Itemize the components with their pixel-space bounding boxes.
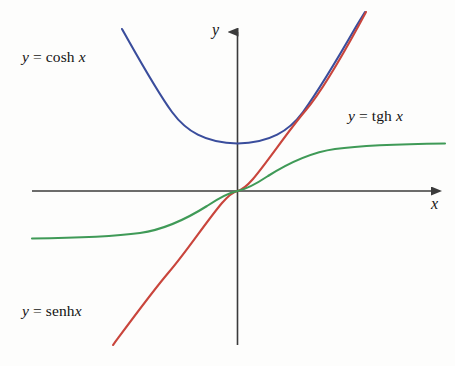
curve-senh <box>113 12 366 345</box>
label-cosh-lhs: y <box>22 48 29 65</box>
y-axis-label: y <box>212 22 219 38</box>
label-tgh-lhs: y <box>348 107 355 124</box>
label-cosh-fnname: cosh <box>46 48 75 65</box>
label-tgh-fnname: tgh <box>372 107 392 124</box>
label-tgh-function: y=tghx <box>348 108 403 124</box>
label-senh-arg: x <box>75 302 82 319</box>
label-senh-lhs: y <box>22 302 29 319</box>
label-senh-fnname: senh <box>46 302 75 319</box>
label-tgh-equals: = <box>359 107 368 124</box>
label-cosh-function: y=coshx <box>22 49 86 65</box>
label-tgh-arg: x <box>396 107 403 124</box>
label-cosh-arg: x <box>79 48 86 65</box>
label-senh-function: y=senhx <box>22 303 82 319</box>
label-senh-equals: = <box>33 302 42 319</box>
label-cosh-equals: = <box>33 48 42 65</box>
hyperbolic-functions-figure: y=coshx y=tghx y=senhx y x <box>0 0 455 366</box>
x-axis-label: x <box>431 196 438 212</box>
